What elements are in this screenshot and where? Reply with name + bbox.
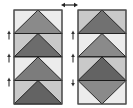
arrow-down-icon bbox=[71, 80, 75, 87]
geese-unit bbox=[14, 57, 62, 81]
quilt-diagram bbox=[0, 0, 133, 108]
geese-unit bbox=[14, 81, 62, 105]
geese-unit bbox=[14, 10, 62, 34]
arrow-up-icon bbox=[7, 31, 11, 40]
arrow-up-icon bbox=[7, 54, 11, 63]
arrow-up-icon bbox=[71, 54, 75, 63]
geese-unit bbox=[78, 34, 126, 58]
swap-arrow-icon bbox=[61, 3, 78, 7]
panels-group bbox=[7, 10, 126, 104]
geese-unit bbox=[78, 57, 126, 81]
right-column bbox=[71, 10, 126, 104]
geese-unit bbox=[14, 34, 62, 58]
left-column-arrows bbox=[7, 31, 11, 87]
geese-unit bbox=[78, 10, 126, 34]
arrow-up-icon bbox=[7, 78, 11, 87]
right-column-arrows bbox=[71, 31, 75, 87]
geese-unit bbox=[78, 81, 126, 105]
left-column bbox=[7, 10, 62, 104]
arrow-up-icon bbox=[71, 31, 75, 40]
flying-geese-diagram bbox=[0, 0, 133, 108]
